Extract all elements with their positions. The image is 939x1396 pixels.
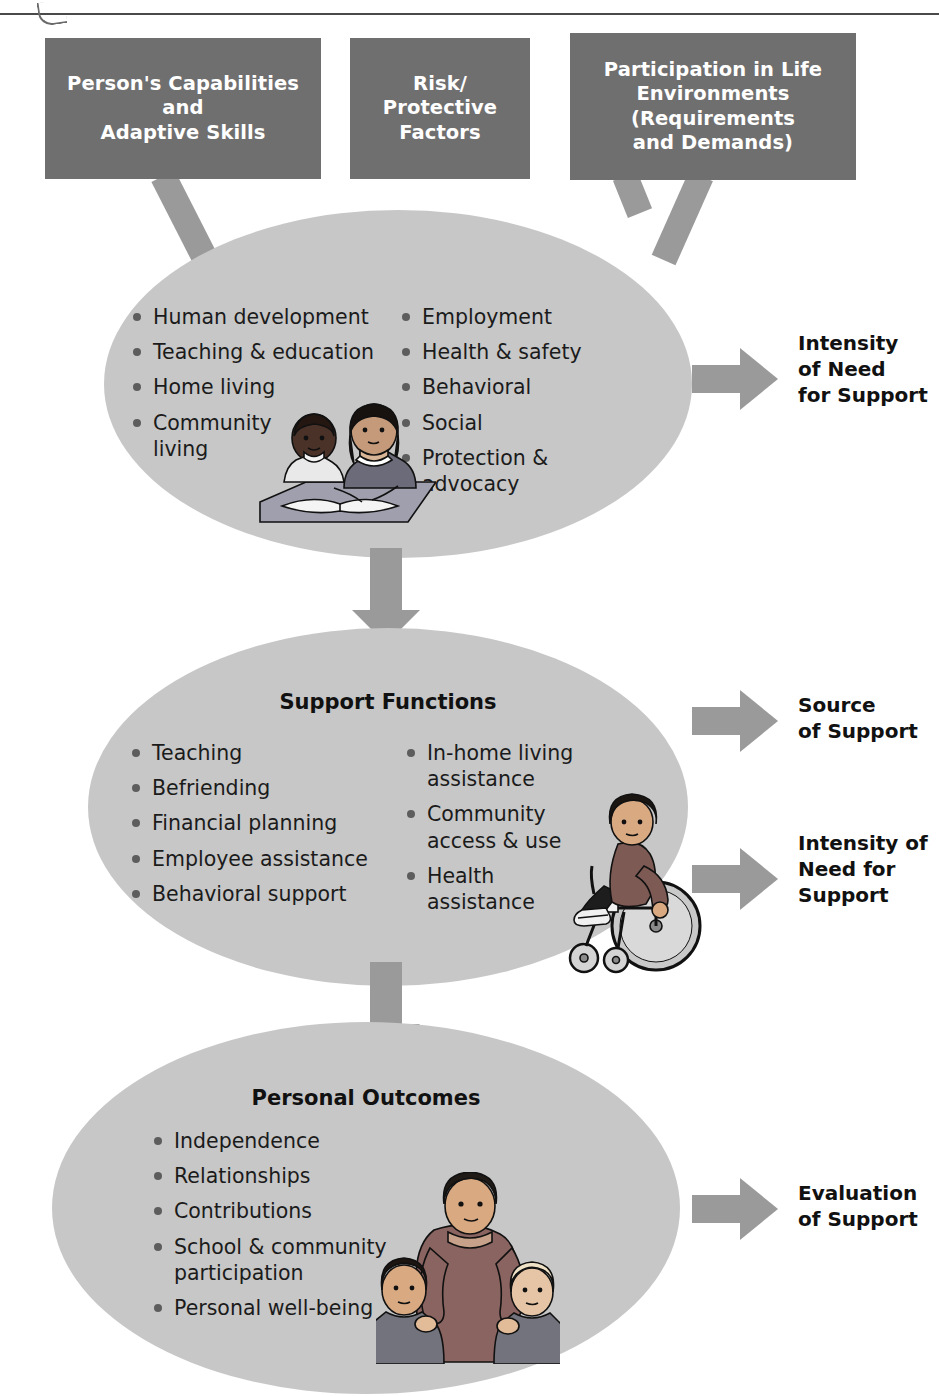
list-item: Human development bbox=[131, 304, 391, 330]
list-item: Employee assistance bbox=[130, 846, 410, 872]
list-item: Financial planning bbox=[130, 810, 410, 836]
list-item: Employment bbox=[400, 304, 630, 330]
arrow-head bbox=[740, 690, 778, 752]
arrow-head bbox=[740, 348, 778, 410]
header-box-risk-protective-factors: Risk/ Protective Factors bbox=[350, 38, 530, 179]
arrow-shaft bbox=[692, 1195, 742, 1223]
arrow-shaft bbox=[692, 707, 742, 735]
ellipse-personal-outcomes-title: Personal Outcomes bbox=[52, 1086, 680, 1110]
arrow-shaft bbox=[692, 865, 742, 893]
family-group-illustration bbox=[376, 1172, 560, 1364]
arrow-to-evaluation-of-support bbox=[692, 1178, 778, 1240]
connector-leg-left bbox=[151, 170, 216, 264]
arrow-to-source-of-support bbox=[692, 690, 778, 752]
person-in-wheelchair-illustration bbox=[560, 790, 710, 986]
list-item: Independence bbox=[152, 1128, 452, 1154]
list-item: Health & safety bbox=[400, 339, 630, 365]
page-corner-mark bbox=[36, 0, 67, 27]
diagram-canvas: Person's Capabilities and Adaptive Skill… bbox=[0, 0, 939, 1396]
page-top-rule bbox=[0, 13, 939, 15]
arrow-shaft bbox=[370, 962, 402, 1024]
label-evaluation-of-support: Evaluation of Support bbox=[798, 1180, 938, 1232]
list-item: Teaching & education bbox=[131, 339, 391, 365]
arrow-shaft bbox=[370, 548, 402, 610]
list-item: Befriending bbox=[130, 775, 410, 801]
ellipse-support-functions-title: Support Functions bbox=[88, 690, 688, 714]
header-box-capabilities-label: Person's Capabilities and Adaptive Skill… bbox=[67, 72, 299, 145]
arrow-to-intensity-of-need-2 bbox=[692, 848, 778, 910]
label-intensity-of-need-for-support-2: Intensity of Need for Support bbox=[798, 830, 938, 908]
support-functions-left-bullet-list: Teaching Befriending Financial planning … bbox=[130, 740, 410, 916]
list-item: Behavioral support bbox=[130, 881, 410, 907]
label-intensity-of-need-for-support: Intensity of Need for Support bbox=[798, 330, 938, 408]
header-box-participation: Participation in Life Environments (Requ… bbox=[570, 33, 856, 180]
header-box-risk-label: Risk/ Protective Factors bbox=[383, 72, 497, 145]
arrow-to-intensity-of-need bbox=[692, 348, 778, 410]
students-reading-illustration bbox=[248, 390, 436, 530]
arrow-head bbox=[740, 848, 778, 910]
label-source-of-support: Source of Support bbox=[798, 692, 938, 744]
list-item: In-home living assistance bbox=[405, 740, 625, 792]
list-item: Teaching bbox=[130, 740, 410, 766]
connector-leg-right bbox=[652, 171, 713, 266]
arrow-shaft bbox=[692, 365, 742, 393]
arrow-head bbox=[740, 1178, 778, 1240]
header-box-participation-label: Participation in Life Environments (Requ… bbox=[604, 58, 822, 156]
header-box-capabilities: Person's Capabilities and Adaptive Skill… bbox=[45, 38, 321, 179]
